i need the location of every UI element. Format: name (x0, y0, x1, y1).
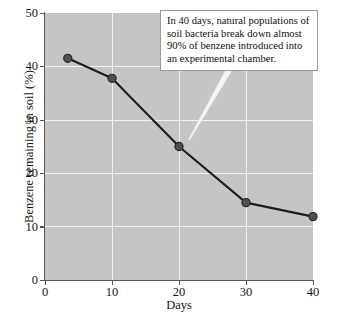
y-tick-mark-40 (40, 66, 45, 67)
y-tick-mark-20 (40, 173, 45, 174)
x-tick-label-30: 30 (229, 286, 263, 298)
annotation-line-1: In 40 days, natural populations of (167, 15, 312, 28)
annotation-line-3: 90% of benzene introduced into (167, 40, 312, 53)
x-tick-label-40: 40 (296, 286, 330, 298)
x-tick-label-20: 20 (162, 286, 196, 298)
annotation-line-4: an experimental chamber. (167, 53, 312, 66)
annotation-line-2: soil bacteria break down almost (167, 28, 312, 41)
gridline-vertical-10 (112, 13, 113, 280)
y-axis-line (44, 12, 45, 281)
y-tick-mark-50 (40, 13, 45, 14)
y-tick-label-0: 0 (8, 274, 38, 286)
x-tick-label-0: 0 (28, 286, 62, 298)
y-tick-label-50: 50 (8, 7, 38, 19)
x-axis-title: Days (45, 299, 313, 312)
benzene-degradation-chart: 0 10 20 30 40 50 0 10 20 30 40 Days Benz… (0, 0, 341, 315)
y-tick-mark-10 (40, 226, 45, 227)
y-axis-title: Benzene remaining in soil (%) (23, 32, 36, 262)
x-tick-label-10: 10 (95, 286, 129, 298)
y-tick-mark-30 (40, 120, 45, 121)
annotation-callout: In 40 days, natural populations of soil … (160, 10, 318, 71)
